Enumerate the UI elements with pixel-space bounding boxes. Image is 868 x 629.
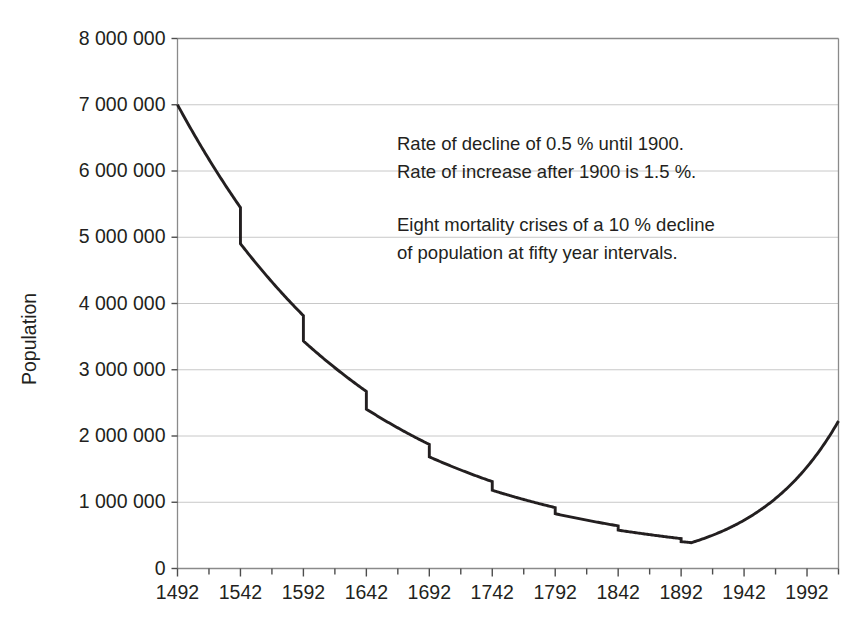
gridlines	[178, 39, 839, 503]
y-axis-tick-label: 4 000 000	[50, 294, 166, 314]
annotation-text-line: Rate of increase after 1900 is 1.5 %.	[397, 163, 696, 182]
annotation-text-line: Eight mortality crises of a 10 % decline	[397, 216, 715, 235]
y-axis-tick-label: 7 000 000	[50, 95, 166, 115]
axis-tick-marks	[172, 39, 839, 577]
y-axis-tick-label: 3 000 000	[50, 360, 166, 380]
y-axis-tick-label: 1 000 000	[50, 492, 166, 512]
annotation-text-line: of population at fifty year intervals.	[397, 244, 678, 263]
population-decline-chart: Population 8 000 0007 000 0006 000 0005 …	[0, 0, 868, 629]
y-axis-title: Population	[16, 237, 46, 387]
y-axis-tick-label: 8 000 000	[50, 29, 166, 49]
y-axis-tick-label: 2 000 000	[50, 426, 166, 446]
x-axis-tick-label: 1992	[767, 583, 847, 603]
y-axis-tick-label: 5 000 000	[50, 227, 166, 247]
y-axis-tick-label: 0	[50, 559, 166, 579]
annotation-text-line: Rate of decline of 0.5 % until 1900.	[397, 135, 684, 154]
y-axis-tick-label: 6 000 000	[50, 161, 166, 181]
y-axis-title-text: Population	[18, 293, 41, 385]
